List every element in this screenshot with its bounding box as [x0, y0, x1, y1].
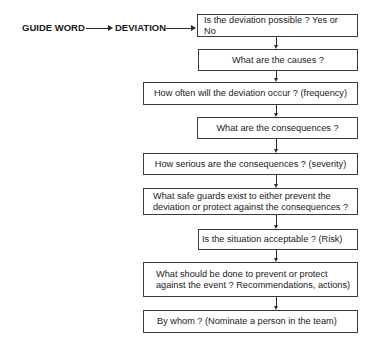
deviation-arrow-head-icon: [191, 25, 196, 31]
step-risk-box: Is the situation acceptable ? (Risk): [198, 229, 358, 250]
connector-4-5: [276, 139, 277, 149]
step-severity-text: How serious are the consequences ? (seve…: [155, 159, 347, 170]
step-safeguards-text: What safe guards exist to either prevent…: [153, 191, 348, 213]
step-risk-text: Is the situation acceptable ? (Risk): [202, 234, 342, 245]
step-by-whom-box: By whom ? (Nominate a person in the team…: [143, 310, 358, 333]
connector-3-4: [276, 105, 277, 113]
deviation-arrow-line: [166, 28, 192, 29]
step-recommendations-text: What should be done to prevent or protec…: [156, 269, 350, 291]
step-by-whom-text: By whom ? (Nominate a person in the team…: [157, 316, 337, 327]
step-causes-text: What are the causes ?: [232, 55, 324, 66]
step-frequency-text: How often will the deviation occur ? (fr…: [154, 88, 347, 99]
step-possible-text: Is the deviation possible ? Yes or No: [204, 15, 351, 37]
connector-5-6: [276, 175, 277, 184]
step-severity-box: How serious are the consequences ? (seve…: [143, 153, 358, 175]
deviation-label: DEVIATION: [115, 22, 166, 33]
step-consequences-text: What are the consequences ?: [216, 123, 338, 134]
step-recommendations-box: What should be done to prevent or protec…: [143, 262, 358, 297]
guide-word-arrow-line: [86, 28, 110, 29]
connector-7-8: [276, 250, 277, 258]
step-possible-box: Is the deviation possible ? Yes or No: [197, 14, 358, 37]
step-frequency-box: How often will the deviation occur ? (fr…: [143, 82, 358, 105]
step-safeguards-box: What safe guards exist to either prevent…: [143, 188, 358, 215]
connector-6-7: [276, 215, 277, 225]
step-causes-box: What are the causes ?: [198, 49, 358, 71]
guide-word-arrow-head-icon: [108, 25, 113, 31]
step-consequences-box: What are the consequences ?: [197, 117, 358, 139]
connector-1-2: [276, 37, 277, 45]
connector-8-9: [276, 297, 277, 306]
guide-word-label: GUIDE WORD: [22, 22, 85, 33]
